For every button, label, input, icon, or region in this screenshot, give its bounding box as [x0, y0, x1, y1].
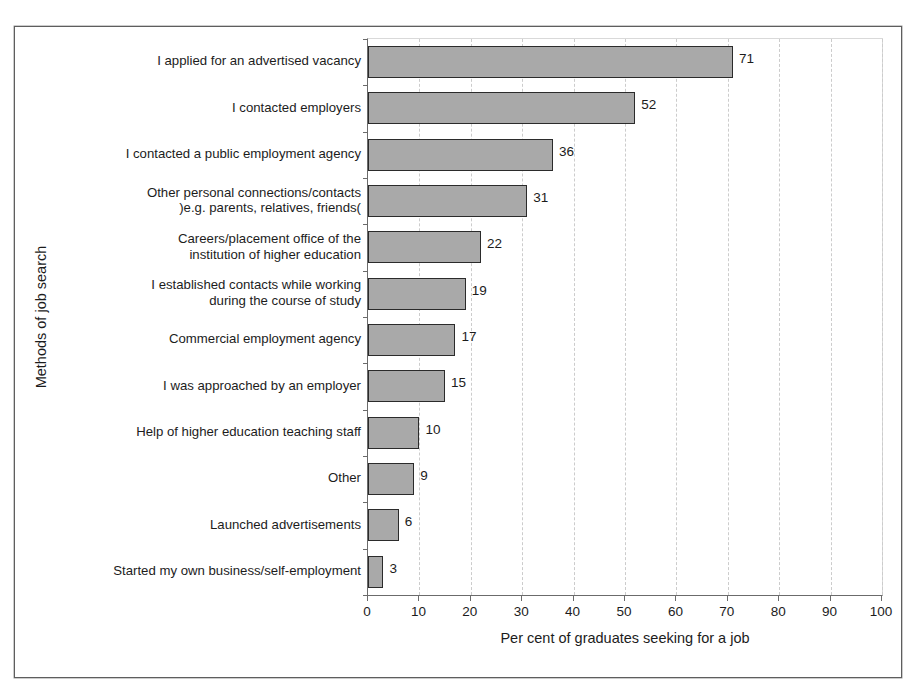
bar-value-label: 17 — [461, 329, 476, 344]
y-axis-tick — [363, 549, 368, 550]
bar-row: 71 — [368, 39, 882, 85]
bar — [368, 185, 527, 217]
y-axis-tick — [363, 85, 368, 86]
bar — [368, 231, 481, 263]
category-label: I was approached by an employer — [58, 378, 361, 394]
bar-row: 15 — [368, 363, 882, 409]
x-axis-ticks — [367, 595, 883, 603]
cut-off-title-remnant — [0, 0, 917, 12]
bar-row: 31 — [368, 178, 882, 224]
category-label: Other personal connections/contacts )e.g… — [58, 185, 361, 216]
y-axis-tick — [363, 39, 368, 40]
bar-row: 10 — [368, 410, 882, 456]
x-axis-tick — [778, 595, 779, 601]
bar — [368, 92, 635, 124]
x-axis-tick — [573, 595, 574, 601]
x-axis-tick — [470, 595, 471, 601]
bar-value-label: 22 — [487, 236, 502, 251]
bar-row: 19 — [368, 271, 882, 317]
y-axis-tick — [363, 178, 368, 179]
category-label: Started my own business/self-employment — [58, 563, 361, 579]
gridline — [882, 39, 883, 595]
bar-value-label: 71 — [739, 51, 754, 66]
bar-row: 36 — [368, 132, 882, 178]
x-axis-tick — [521, 595, 522, 601]
x-axis-tick-labels: 0102030405060708090100 — [367, 604, 883, 624]
y-axis-tick — [363, 363, 368, 364]
bar-row: 6 — [368, 502, 882, 548]
category-label: Other — [58, 470, 361, 486]
bar-row: 9 — [368, 456, 882, 502]
bar-value-label: 19 — [472, 283, 487, 298]
y-axis-tick — [363, 271, 368, 272]
category-label: Commercial employment agency — [58, 331, 361, 347]
bar-value-label: 36 — [559, 144, 574, 159]
category-axis-labels: I applied for an advertised vacancyI con… — [58, 38, 361, 594]
category-label: Help of higher education teaching staff — [58, 424, 361, 440]
bar-value-label: 10 — [425, 422, 440, 437]
bar — [368, 278, 466, 310]
category-label: I established contacts while working dur… — [58, 277, 361, 308]
bar-value-label: 31 — [533, 190, 548, 205]
y-axis-title: Methods of job search — [33, 167, 55, 467]
x-axis-tick — [418, 595, 419, 601]
category-label: Launched advertisements — [58, 517, 361, 533]
category-label: I applied for an advertised vacancy — [58, 53, 361, 69]
bar-value-label: 6 — [405, 514, 413, 529]
category-label: I contacted a public employment agency — [58, 146, 361, 162]
bar — [368, 139, 553, 171]
y-axis-tick — [363, 456, 368, 457]
y-axis-tick — [363, 502, 368, 503]
bar-value-label: 52 — [641, 97, 656, 112]
bar — [368, 463, 414, 495]
y-axis-tick — [363, 224, 368, 225]
x-axis-tick-label: 100 — [851, 604, 911, 619]
y-axis-tick — [363, 410, 368, 411]
y-axis-tick — [363, 132, 368, 133]
bar-row: 52 — [368, 85, 882, 131]
x-axis-title: Per cent of graduates seeking for a job — [367, 630, 883, 646]
x-axis-tick — [675, 595, 676, 601]
bar-row: 22 — [368, 224, 882, 270]
category-label: I contacted employers — [58, 100, 361, 116]
bar — [368, 509, 399, 541]
category-label: Careers/placement office of the institut… — [58, 231, 361, 262]
x-axis-tick — [624, 595, 625, 601]
bar — [368, 370, 445, 402]
y-axis-tick — [363, 317, 368, 318]
bar-row: 3 — [368, 549, 882, 595]
plot-area: 715236312219171510963 — [367, 38, 883, 596]
x-axis-tick — [830, 595, 831, 601]
x-axis-tick — [367, 595, 368, 601]
x-axis-tick — [881, 595, 882, 601]
bar-value-label: 9 — [420, 468, 428, 483]
bar-value-label: 15 — [451, 375, 466, 390]
bar — [368, 417, 419, 449]
bar-series: 715236312219171510963 — [368, 39, 882, 595]
bar — [368, 46, 733, 78]
bar — [368, 324, 455, 356]
x-axis-tick — [727, 595, 728, 601]
bar-row: 17 — [368, 317, 882, 363]
bar — [368, 556, 383, 588]
scan-artifact — [40, 684, 740, 692]
bar-value-label: 3 — [389, 561, 397, 576]
